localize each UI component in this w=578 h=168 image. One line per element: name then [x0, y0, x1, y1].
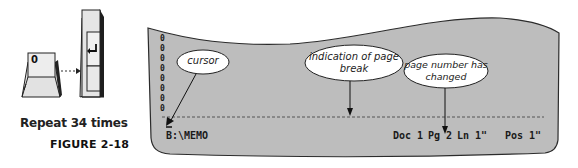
margin-char: 0: [160, 84, 168, 94]
status-position: Pos 1": [505, 130, 541, 141]
left-margin-column: 0 0 0 0 0 0 0 0: [160, 34, 168, 114]
margin-char: 0: [160, 54, 168, 64]
margin-char: 0: [160, 44, 168, 54]
page-number-callout-line1: page number has: [404, 59, 488, 71]
status-doc: Doc 1: [393, 130, 423, 141]
zero-key-label: 0: [31, 54, 38, 65]
margin-char: 0: [160, 104, 168, 114]
zero-key-icon: [22, 53, 62, 97]
margin-char: 0: [160, 94, 168, 104]
repeat-instruction: Repeat 34 times: [20, 116, 128, 130]
page-break-callout-line2: break: [305, 63, 403, 75]
margin-char: 0: [160, 64, 168, 74]
status-page: Pg 2: [428, 130, 452, 141]
page-break-callout-text: indication of page break: [305, 51, 403, 75]
cursor-callout-text: cursor: [177, 55, 229, 67]
enter-key-icon: [80, 10, 104, 97]
margin-char: 0: [160, 74, 168, 84]
screen-body: [148, 18, 559, 157]
status-line: Ln 1": [457, 130, 487, 141]
page-number-callout-text: page number has changed: [404, 59, 488, 83]
status-path: B:\MEMO: [166, 130, 208, 141]
then-arrow-icon: [61, 68, 81, 74]
page-break-callout-line1: indication of page: [305, 51, 403, 63]
margin-char: 0: [160, 34, 168, 44]
page-number-callout-line2: changed: [404, 71, 488, 83]
figure-label: FIGURE 2-18: [50, 138, 129, 151]
